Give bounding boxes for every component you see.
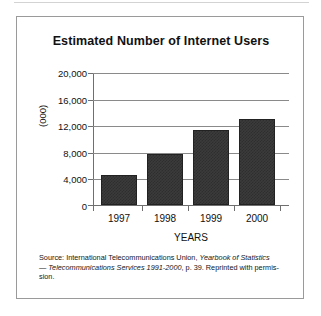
bar-slot-1999 xyxy=(188,73,234,205)
source-line2-dash: — xyxy=(39,263,48,272)
plot-area xyxy=(93,73,289,206)
source-caption: Source: International Telecommunications… xyxy=(39,253,289,282)
source-line2-plain: , p. 39. Reprinted with permis- xyxy=(182,263,279,272)
x-tick-mark-1 xyxy=(142,206,143,211)
bar-1997 xyxy=(101,175,137,205)
bar-slot-2000 xyxy=(234,73,280,205)
x-tick-mark-0 xyxy=(93,206,94,211)
x-tick-mark-4 xyxy=(280,206,281,211)
y-tick-label-20000: 20,000 xyxy=(58,68,87,79)
y-tick-label-16000: 16,000 xyxy=(58,94,87,105)
scan-artifact-line xyxy=(14,2,309,3)
x-tick-mark-3 xyxy=(234,206,235,211)
source-line1-plain: Source: International Telecommunications… xyxy=(39,253,197,262)
bar-slot-1998 xyxy=(142,73,188,205)
y-axis-labels: 20,000 16,000 12,000 8,000 4,000 0 xyxy=(33,73,87,206)
bar-1998 xyxy=(147,154,183,205)
bar-series xyxy=(93,73,289,205)
bar-2000 xyxy=(239,119,275,205)
y-tick-label-12000: 12,000 xyxy=(58,121,87,132)
y-tick-label-0: 0 xyxy=(82,201,87,212)
source-line3-plain: sion. xyxy=(39,272,54,281)
y-axis-title: (000) xyxy=(37,105,48,127)
y-tick-label-8000: 8,000 xyxy=(63,147,87,158)
x-axis-title: YEARS xyxy=(93,232,289,243)
x-tick-label-1997: 1997 xyxy=(108,213,130,224)
x-tick-label-1999: 1999 xyxy=(200,213,222,224)
x-tick-mark-2 xyxy=(188,206,189,211)
source-line2-italic: Telecommunications Services 1991-2000 xyxy=(48,263,181,272)
source-line1-italic: Yearbook of Statistics xyxy=(200,253,270,262)
x-axis-labels: 1997 1998 1999 2000 xyxy=(93,213,289,227)
x-tick-label-2000: 2000 xyxy=(246,213,268,224)
y-tick-label-4000: 4,000 xyxy=(63,174,87,185)
bar-1999 xyxy=(193,130,229,205)
x-tick-label-1998: 1998 xyxy=(154,213,176,224)
bar-slot-1997 xyxy=(96,73,142,205)
chart-title: Estimated Number of Internet Users xyxy=(17,34,305,48)
figure-container: Estimated Number of Internet Users 20,00… xyxy=(0,0,321,316)
chart-frame: Estimated Number of Internet Users 20,00… xyxy=(16,16,304,299)
